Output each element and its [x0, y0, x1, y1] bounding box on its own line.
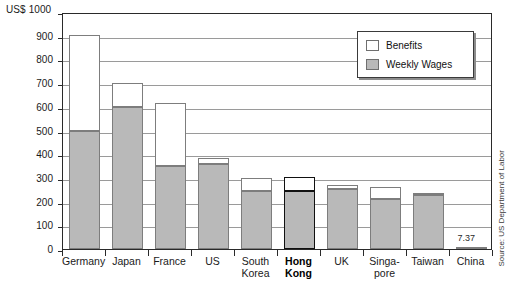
x-axis-label: China: [449, 256, 492, 268]
chart-root: US$ 1000 7.37 01002003004005006007008009…: [0, 0, 527, 290]
bar-segment-weekly-wages: [155, 166, 186, 249]
legend-swatch-weekly-wages: [366, 59, 379, 70]
bar-segment-weekly-wages: [456, 247, 487, 249]
y-axis-label: 0: [0, 244, 53, 255]
x-axis-tick: [492, 250, 493, 256]
bar-segment-weekly-wages: [284, 191, 315, 249]
bar-segment-weekly-wages: [327, 189, 358, 249]
y-axis-label: 800: [0, 54, 53, 65]
x-axis-label: US: [191, 256, 234, 268]
x-axis-label: Japan: [105, 256, 148, 268]
bar-segment-weekly-wages: [69, 131, 100, 250]
legend-label-weekly-wages: Weekly Wages: [386, 59, 452, 70]
bar-group: [112, 12, 143, 249]
bar-segment-benefits: [241, 178, 272, 191]
y-axis-label: 200: [0, 197, 53, 208]
y-axis-label: 400: [0, 149, 53, 160]
bar-group: [284, 12, 315, 249]
chart-legend: Benefits Weekly Wages: [357, 31, 474, 78]
bar-group: [241, 12, 272, 249]
bar-group: [69, 12, 100, 249]
data-point-annotation: 7.37: [458, 233, 476, 243]
bar-group: [198, 12, 229, 249]
bar-segment-benefits: [370, 187, 401, 199]
legend-label-benefits: Benefits: [386, 40, 422, 51]
x-axis-label: France: [148, 256, 191, 268]
bar-group: [155, 12, 186, 249]
bar-segment-weekly-wages: [370, 199, 401, 249]
x-axis-label: Hong Kong: [277, 256, 320, 279]
y-axis-label: 300: [0, 173, 53, 184]
legend-swatch-benefits: [366, 40, 379, 51]
bar-segment-benefits: [198, 158, 229, 164]
bar-segment-weekly-wages: [413, 195, 444, 249]
bar-segment-benefits: [155, 103, 186, 166]
bar-segment-benefits: [327, 185, 358, 189]
bar-segment-benefits: [284, 177, 315, 191]
x-axis-label: Singa- pore: [363, 256, 406, 279]
y-axis-label: 900: [0, 31, 53, 42]
bar-group: [327, 12, 358, 249]
bar-segment-benefits: [112, 83, 143, 107]
x-axis-label: UK: [320, 256, 363, 268]
bar-segment-benefits: [69, 35, 100, 131]
x-axis-label: Taiwan: [406, 256, 449, 268]
x-axis-label: Germany: [62, 256, 105, 268]
y-axis-label: 700: [0, 78, 53, 89]
y-axis-label: 500: [0, 126, 53, 137]
y-axis-unit-label: US$ 1000: [6, 4, 51, 15]
bar-segment-weekly-wages: [241, 191, 272, 249]
y-axis-label: 600: [0, 102, 53, 113]
x-axis-label: South Korea: [234, 256, 277, 279]
bar-segment-benefits: [413, 193, 444, 195]
legend-item-weekly-wages: Weekly Wages: [366, 59, 452, 70]
source-note: Source: US Department of Labor: [497, 150, 506, 267]
bar-segment-weekly-wages: [198, 164, 229, 249]
y-axis-label: 100: [0, 220, 53, 231]
legend-item-benefits: Benefits: [366, 40, 422, 51]
bar-segment-weekly-wages: [112, 107, 143, 249]
